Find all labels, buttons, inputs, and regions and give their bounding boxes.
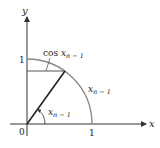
cos-label: cos xn − 1 xyxy=(43,48,84,60)
y-tick-label-1: 1 xyxy=(19,55,25,65)
y-axis-label: y xyxy=(21,5,28,16)
x-axis-label: x xyxy=(149,118,155,129)
cos-leader-line xyxy=(46,58,50,71)
unit-circle-diagram: y x 0 1 1 cos xn − 1 xn − 1 xn − 1 xyxy=(0,0,160,148)
angle-arc xyxy=(38,110,45,125)
arc-length-label: xn − 1 xyxy=(88,84,111,96)
origin-label: 0 xyxy=(19,127,25,137)
angle-label: xn − 1 xyxy=(48,107,71,119)
x-tick-label-1: 1 xyxy=(89,128,95,138)
